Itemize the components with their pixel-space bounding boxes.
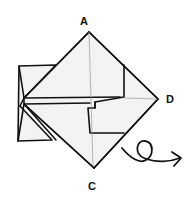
label-a: A (80, 16, 88, 27)
label-c: C (88, 181, 96, 192)
label-d: D (166, 94, 174, 105)
origami-diagram (0, 0, 193, 203)
turn-over-icon (122, 141, 181, 166)
